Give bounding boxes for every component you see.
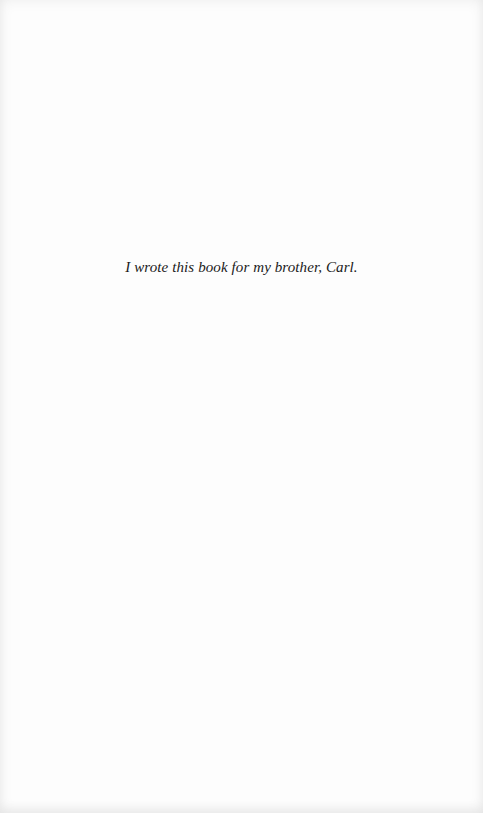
book-page: I wrote this book for my brother, Carl. bbox=[0, 0, 483, 813]
dedication-text: I wrote this book for my brother, Carl. bbox=[0, 257, 483, 277]
